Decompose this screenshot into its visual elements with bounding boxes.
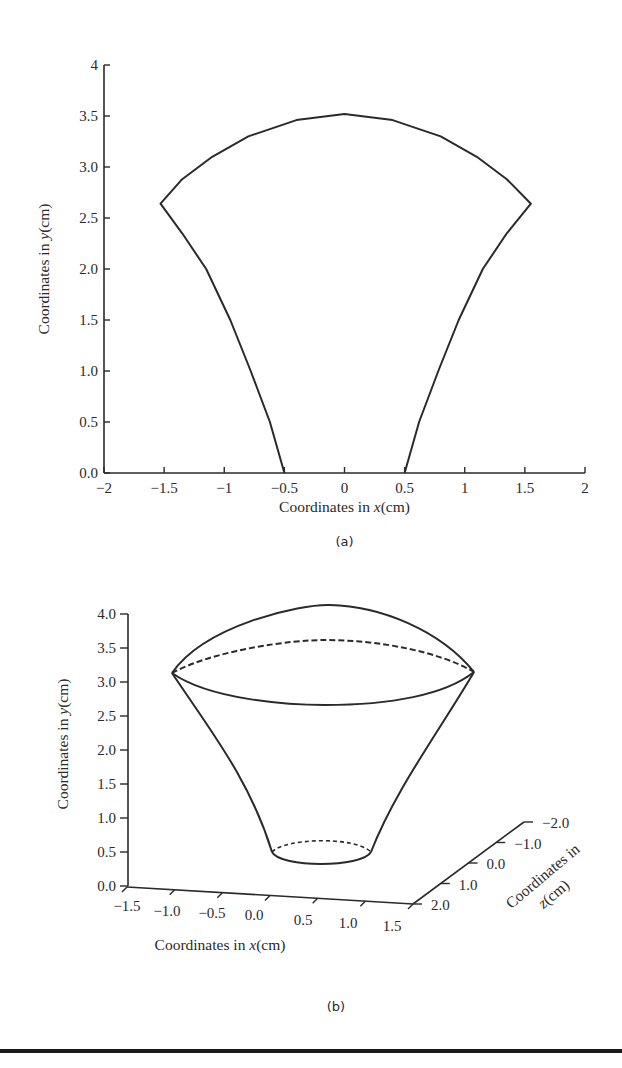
z-tick-label: −2.0 (542, 815, 569, 831)
caption-b: (b) (327, 999, 345, 1014)
y-tick-label: 2.0 (97, 742, 116, 758)
y-tick-label: 0.5 (97, 844, 116, 860)
x-tick-label: −1.0 (153, 903, 180, 919)
x-tick-label: 1.5 (383, 918, 402, 934)
y-tick-label: 0.0 (97, 878, 116, 894)
chart-b: 0.00.51.01.52.02.53.03.54.0Coordinates i… (0, 0, 622, 1040)
x-tick-label: −0.5 (198, 905, 225, 921)
top-rim-front (172, 672, 474, 705)
x-tick-label: 0.0 (245, 907, 264, 923)
z-tick-label: 1.0 (459, 877, 478, 893)
surface-wireframe (172, 605, 474, 864)
y-tick-label: 1.5 (97, 776, 116, 792)
bottom-rim-back (272, 841, 371, 852)
z-tick-label: −1.0 (514, 836, 541, 852)
figure: 0.00.51.01.52.02.53.03.54−2−1.5−1−0.500.… (0, 0, 622, 1068)
y-tick-label: 3.5 (97, 640, 116, 656)
x-axis-title: Coordinates in x(cm) (155, 936, 286, 954)
top-rim-back (172, 640, 474, 673)
y-tick-label: 4.0 (97, 606, 116, 622)
x-tick-label: 0.5 (294, 912, 313, 928)
y-axis-title: Coordinates in y(cm) (54, 679, 72, 810)
z-tick-label: 2.0 (431, 897, 450, 913)
z-tick-label: 0.0 (487, 856, 506, 872)
side-right (371, 672, 474, 852)
bottom-rule (0, 1049, 622, 1053)
bottom-rim-front (272, 852, 371, 864)
x-tick-label: 1.0 (339, 915, 358, 931)
y-tick-label: 3.0 (97, 674, 116, 690)
y-tick-label: 1.0 (97, 810, 116, 826)
x-tick-label: −1.5 (113, 898, 140, 914)
cap-arc (172, 605, 474, 673)
y-tick-label: 2.5 (97, 708, 116, 724)
